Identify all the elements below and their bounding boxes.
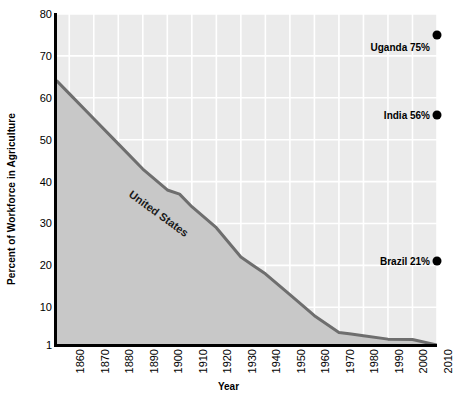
plot-svg <box>57 14 437 345</box>
annotation-label-brazil: Brazil 21% <box>380 256 430 267</box>
y-tick-label: 50 <box>22 134 52 146</box>
y-tick-label: 70 <box>22 50 52 62</box>
y-tick-label: 60 <box>22 92 52 104</box>
annotation-label-india: India 56% <box>384 109 430 120</box>
united-states-area <box>57 81 437 345</box>
y-tick-label: 40 <box>22 176 52 188</box>
y-axis-line <box>54 13 57 347</box>
annotation-marker-brazil <box>433 257 442 266</box>
y-tick-label: 30 <box>22 217 52 229</box>
annotation-marker-india <box>433 110 442 119</box>
x-axis-title: Year <box>0 381 457 392</box>
y-tick-label: 10 <box>22 301 52 313</box>
y-tick-label: 80 <box>22 8 52 20</box>
chart-container: Percent of Workforce in Agriculture 1102… <box>0 0 457 398</box>
plot-area <box>57 14 437 345</box>
y-axis-tick-labels: 11020304050607080 <box>22 0 52 398</box>
y-tick-label: 20 <box>22 259 52 271</box>
x-axis-line <box>54 344 437 347</box>
y-axis-title: Percent of Workforce in Agriculture <box>0 0 22 398</box>
annotation-marker-uganda <box>433 30 442 39</box>
annotation-label-uganda: Uganda 75% <box>371 41 430 52</box>
